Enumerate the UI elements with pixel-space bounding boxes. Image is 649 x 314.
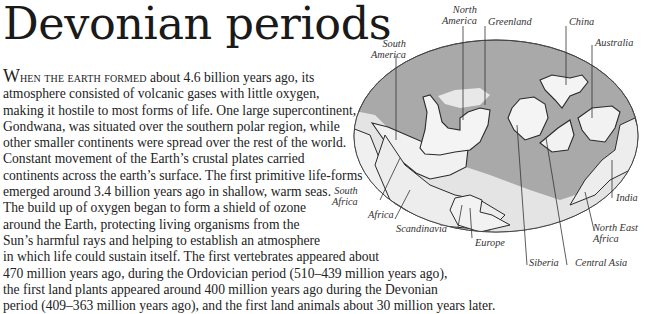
label-australia: Australia xyxy=(595,37,633,48)
label-scandinavia: Scandinavia xyxy=(396,223,447,234)
lead-in-smallcaps: hen the earth formed xyxy=(20,70,147,85)
drop-initial: W xyxy=(3,66,20,86)
label-south-africa: SouthAfrica xyxy=(332,185,358,207)
devonian-world-map: NorthAmerica Greenland China SouthAmeric… xyxy=(330,0,649,284)
label-siberia: Siberia xyxy=(529,257,559,268)
label-europe: Europe xyxy=(475,237,505,248)
label-south-america: SouthAmerica xyxy=(371,38,406,60)
label-north-east-africa: North EastAfrica xyxy=(593,222,638,244)
label-greenland: Greenland xyxy=(488,16,532,27)
body-line: the first land plants appeared around 40… xyxy=(3,282,649,298)
body-line: period (409–363 million years ago), and … xyxy=(3,298,649,314)
label-central-asia: Central Asia xyxy=(575,257,627,268)
label-india: India xyxy=(616,192,638,203)
label-africa: Africa xyxy=(368,209,394,220)
label-china: China xyxy=(569,16,594,27)
label-north-america: NorthAmerica xyxy=(442,4,477,26)
